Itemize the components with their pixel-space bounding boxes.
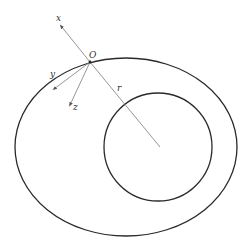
origin-label: O (89, 50, 97, 60)
x-axis-arrow (61, 26, 90, 62)
z-axis-label: z (72, 102, 78, 112)
inner-circle (104, 93, 212, 201)
origin-point (89, 61, 92, 64)
diagram-canvas: x O y z r (0, 0, 245, 248)
outer-ellipse (15, 58, 237, 236)
radius-line (90, 62, 160, 147)
y-axis-label: y (49, 69, 56, 79)
diagram-svg: x O y z r (0, 0, 245, 248)
x-axis-label: x (56, 13, 61, 23)
radius-label: r (117, 83, 122, 93)
